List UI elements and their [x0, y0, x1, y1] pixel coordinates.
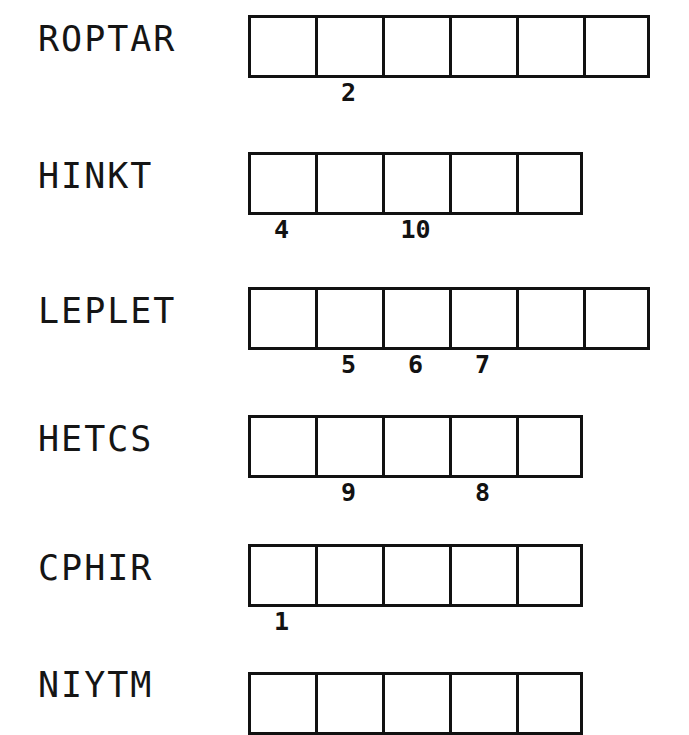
letter-box[interactable] — [248, 672, 315, 735]
letter-box[interactable] — [248, 544, 315, 607]
letter-box[interactable] — [382, 15, 449, 78]
letter-box[interactable] — [449, 152, 516, 215]
scrambled-word-label: LEPLET — [38, 294, 176, 329]
letter-box[interactable] — [516, 415, 583, 478]
letter-box[interactable] — [382, 152, 449, 215]
letter-box[interactable] — [315, 544, 382, 607]
scrambled-word-label: CPHIR — [38, 551, 153, 586]
letter-box[interactable] — [382, 544, 449, 607]
scrambled-word-label: ROPTAR — [38, 22, 176, 57]
answer-box-group — [248, 15, 650, 78]
letter-box[interactable] — [449, 672, 516, 735]
letter-box[interactable] — [315, 287, 382, 350]
letter-box[interactable] — [449, 415, 516, 478]
letter-box[interactable] — [248, 15, 315, 78]
clue-number: 5 — [315, 352, 382, 377]
clue-number: 8 — [449, 480, 516, 505]
clue-number: 9 — [315, 480, 382, 505]
letter-box[interactable] — [315, 415, 382, 478]
clue-number: 7 — [449, 352, 516, 377]
letter-box[interactable] — [516, 15, 583, 78]
letter-box[interactable] — [382, 415, 449, 478]
clue-number: 1 — [248, 609, 315, 634]
letter-box[interactable] — [382, 287, 449, 350]
scrambled-word-label: HETCS — [38, 422, 153, 457]
clue-number: 6 — [382, 352, 449, 377]
letter-box[interactable] — [248, 152, 315, 215]
letter-box[interactable] — [449, 544, 516, 607]
letter-box[interactable] — [516, 287, 583, 350]
letter-box[interactable] — [248, 415, 315, 478]
scrambled-word-label: HINKT — [38, 159, 153, 194]
letter-box[interactable] — [449, 15, 516, 78]
letter-box[interactable] — [583, 15, 650, 78]
answer-box-group — [248, 672, 583, 735]
letter-box[interactable] — [449, 287, 516, 350]
clue-number: 4 — [248, 217, 315, 242]
letter-box[interactable] — [315, 672, 382, 735]
clue-number: 2 — [315, 80, 382, 105]
letter-box[interactable] — [583, 287, 650, 350]
scrambled-word-label: NIYTM — [38, 668, 153, 703]
letter-box[interactable] — [382, 672, 449, 735]
letter-box[interactable] — [315, 152, 382, 215]
letter-box[interactable] — [315, 15, 382, 78]
answer-box-group — [248, 287, 650, 350]
answer-box-group — [248, 152, 583, 215]
answer-box-group — [248, 544, 583, 607]
letter-box[interactable] — [248, 287, 315, 350]
letter-box[interactable] — [516, 544, 583, 607]
clue-number: 10 — [382, 217, 449, 242]
letter-box[interactable] — [516, 152, 583, 215]
answer-box-group — [248, 415, 583, 478]
letter-box[interactable] — [516, 672, 583, 735]
